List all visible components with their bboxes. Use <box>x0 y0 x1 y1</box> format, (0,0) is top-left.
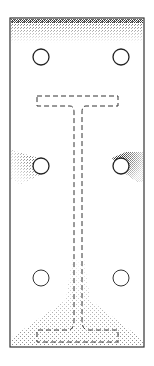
stress-top-edge-band <box>11 19 143 43</box>
hole-mid-right-icon <box>113 158 129 174</box>
hole-top-right-icon <box>113 49 129 65</box>
hole-top-left-icon <box>33 49 49 65</box>
hole-bottom-right-icon <box>113 270 129 286</box>
hole-mid-left-icon <box>33 158 49 174</box>
diagram-canvas <box>0 0 154 366</box>
bolt-holes <box>33 49 129 286</box>
hole-bottom-left-icon <box>33 270 49 286</box>
